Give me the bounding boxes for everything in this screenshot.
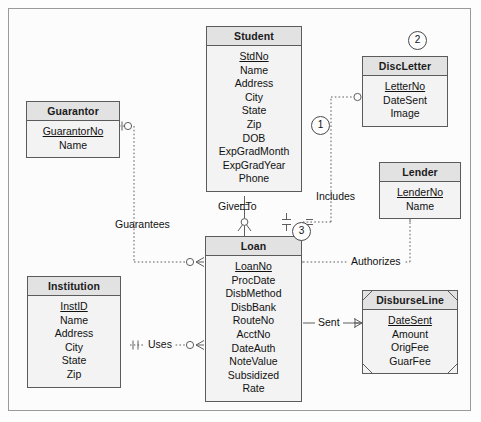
entity-loan-header: Loan [206,237,301,256]
entity-lender-header: Lender [380,163,460,182]
relationship-label-authorizes: Authorizes [348,255,404,267]
relationship-label-includes: Includes [316,190,355,202]
entity-institution-header: Institution [28,277,120,296]
relationship-label-uses: Uses [145,338,175,350]
entity-institution[interactable]: Institution InstID Name Address City Sta… [27,276,121,388]
attribute-origfee: OrigFee [369,341,451,355]
attribute-routeno: RouteNo [212,314,295,328]
entity-lender[interactable]: Lender LenderNo Name [379,162,461,219]
annotation-circle-3: 3 [292,222,311,241]
entity-disburseline-header: DisburseLine [363,291,457,310]
attribute-name: Name [33,139,113,153]
attribute-stdno: StdNo [213,50,295,64]
attribute-expgradyear: ExpGradYear [213,159,295,173]
annotation-circle-2: 2 [408,31,427,50]
entity-lender-attributes: LenderNo Name [380,182,460,218]
attribute-phone: Phone [213,172,295,186]
entity-student-header: Student [207,27,301,46]
attribute-acctno: AcctNo [212,328,295,342]
entity-student-attributes: StdNo Name Address City State Zip DOB Ex… [207,46,301,191]
attribute-instid: InstID [34,300,114,314]
entity-discletter-header: DiscLetter [363,57,447,76]
relationship-label-givento: GivenTo [218,200,257,212]
attribute-subsidized: Subsidized [212,369,295,383]
attribute-zip: Zip [213,118,295,132]
attribute-dateauth: DateAuth [212,342,295,356]
attribute-procdate: ProcDate [212,274,295,288]
attribute-name: Name [213,64,295,78]
relationship-label-sent: Sent [315,316,343,328]
attribute-state: State [213,104,295,118]
attribute-city: City [34,341,114,355]
attribute-name: Name [34,314,114,328]
attribute-zip: Zip [34,368,114,382]
attribute-address: Address [213,77,295,91]
attribute-name: Name [386,200,454,214]
attribute-amount: Amount [369,328,451,342]
entity-guarantor-header: Guarantor [27,102,119,121]
entity-guarantor[interactable]: Guarantor GuarantorNo Name [26,101,120,158]
attribute-notevalue: NoteValue [212,355,295,369]
entity-loan-attributes: LoanNo ProcDate DisbMethod DisbBank Rout… [206,256,301,401]
attribute-loanno: LoanNo [212,260,295,274]
entity-discletter-attributes: LetterNo DateSent Image [363,76,447,126]
relationship-label-guarantees: Guarantees [115,218,170,230]
annotation-circle-1: 1 [311,116,330,135]
attribute-rate: Rate [212,382,295,396]
attribute-datesent: DateSent [369,314,451,328]
attribute-address: Address [34,327,114,341]
entity-discletter[interactable]: DiscLetter LetterNo DateSent Image [362,56,448,127]
entity-disburseline[interactable]: DisburseLine DateSent Amount OrigFee Gua… [362,290,458,374]
attribute-city: City [213,91,295,105]
attribute-state: State [34,354,114,368]
attribute-image: Image [369,107,441,121]
entity-institution-attributes: InstID Name Address City State Zip [28,296,120,387]
entity-loan[interactable]: Loan LoanNo ProcDate DisbMethod DisbBank… [205,236,302,402]
attribute-disbbank: DisbBank [212,301,295,315]
er-diagram-canvas: Student StdNo Name Address City State Zi… [0,0,481,422]
attribute-dob: DOB [213,132,295,146]
attribute-disbmethod: DisbMethod [212,287,295,301]
attribute-guarantorno: GuarantorNo [33,125,113,139]
attribute-lenderno: LenderNo [386,186,454,200]
entity-student[interactable]: Student StdNo Name Address City State Zi… [206,26,302,192]
entity-guarantor-attributes: GuarantorNo Name [27,121,119,157]
attribute-datesent: DateSent [369,94,441,108]
attribute-guarfee: GuarFee [369,355,451,369]
attribute-letterno: LetterNo [369,80,441,94]
attribute-expgradmonth: ExpGradMonth [213,145,295,159]
entity-disburseline-attributes: DateSent Amount OrigFee GuarFee [363,310,457,373]
